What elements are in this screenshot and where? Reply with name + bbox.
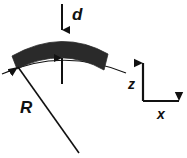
label-radius-R: R: [20, 98, 33, 117]
label-axis-x: x: [156, 106, 166, 122]
label-thickness-d: d: [72, 5, 83, 24]
label-axis-z: z: [127, 76, 135, 92]
curved-layer-diagram: d R z x: [0, 0, 187, 158]
figure-canvas: d R z x: [0, 0, 187, 158]
